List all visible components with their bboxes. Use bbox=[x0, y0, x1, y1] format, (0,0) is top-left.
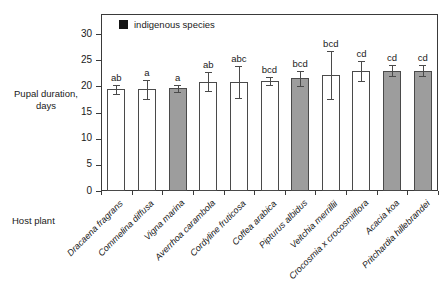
error-bar-cap-lower bbox=[358, 81, 365, 82]
error-bar-cap-upper bbox=[143, 80, 150, 81]
bar bbox=[352, 71, 370, 191]
legend: indigenous species bbox=[119, 19, 215, 30]
error-bar-stem bbox=[331, 51, 332, 99]
y-axis-tick-label: 0 bbox=[86, 185, 92, 197]
significance-letter: abc bbox=[224, 53, 254, 64]
error-bar-stem bbox=[423, 65, 424, 77]
error-bar-cap-lower bbox=[143, 99, 150, 100]
error-bar-stem bbox=[300, 71, 301, 86]
error-bar-cap-lower bbox=[205, 91, 212, 92]
x-axis-tick-mark bbox=[193, 191, 194, 195]
error-bar-cap-upper bbox=[297, 71, 304, 72]
error-bar-cap-upper bbox=[174, 85, 181, 86]
y-axis-tick-label: 5 bbox=[86, 158, 92, 170]
bar bbox=[107, 89, 125, 191]
x-axis-category-label: Dracaena fragrans bbox=[65, 198, 125, 258]
y-axis-title: Pupal duration, days bbox=[8, 88, 84, 112]
significance-letter: a bbox=[132, 67, 162, 78]
significance-letter: a bbox=[163, 72, 193, 83]
x-axis-tick-mark bbox=[285, 191, 286, 195]
error-bar-cap-upper bbox=[113, 85, 120, 86]
error-bar-cap-upper bbox=[419, 65, 426, 66]
error-bar-stem bbox=[208, 72, 209, 91]
y-axis-tick-label: 20 bbox=[81, 80, 92, 92]
bar bbox=[291, 78, 309, 191]
significance-letter: cd bbox=[377, 52, 407, 63]
pupal-duration-bar-chart: Pupal duration, days Host plant 05101520… bbox=[0, 0, 446, 305]
error-bar-cap-upper bbox=[266, 77, 273, 78]
bar bbox=[261, 81, 279, 191]
error-bar-cap-lower bbox=[266, 85, 273, 86]
bar bbox=[383, 71, 401, 191]
y-axis-tick-label: 15 bbox=[81, 106, 92, 118]
y-axis-tick-label: 25 bbox=[81, 54, 92, 66]
error-bar-cap-upper bbox=[358, 61, 365, 62]
error-bar-cap-lower bbox=[297, 86, 304, 87]
x-axis-category-label: Cordyline fruticosa bbox=[188, 198, 248, 258]
error-bar-stem bbox=[239, 66, 240, 97]
x-axis-tick-mark bbox=[315, 191, 316, 195]
error-bar-stem bbox=[270, 77, 271, 84]
error-bar-cap-lower bbox=[327, 99, 334, 100]
error-bar-cap-lower bbox=[419, 76, 426, 77]
significance-letter: bcd bbox=[316, 38, 346, 49]
x-axis-tick-mark bbox=[254, 191, 255, 195]
error-bar-cap-upper bbox=[205, 72, 212, 73]
error-bar-cap-lower bbox=[235, 98, 242, 99]
x-axis-tick-mark bbox=[346, 191, 347, 195]
x-axis-tick-mark bbox=[101, 191, 102, 195]
error-bar-cap-upper bbox=[235, 66, 242, 67]
x-axis-category-label: Commelina diffusa bbox=[96, 198, 156, 258]
error-bar-stem bbox=[361, 61, 362, 81]
significance-letter: ab bbox=[101, 72, 131, 83]
error-bar-stem bbox=[116, 85, 117, 93]
error-bar-stem bbox=[147, 80, 148, 100]
legend-swatch-indigenous-icon bbox=[119, 20, 128, 29]
bar bbox=[414, 71, 432, 191]
bar bbox=[169, 88, 187, 191]
significance-letter: bcd bbox=[285, 58, 315, 69]
x-axis-tick-mark bbox=[407, 191, 408, 195]
error-bar-cap-lower bbox=[174, 92, 181, 93]
legend-label-indigenous: indigenous species bbox=[134, 19, 215, 30]
significance-letter: bcd bbox=[255, 64, 285, 75]
x-axis-tick-mark bbox=[224, 191, 225, 195]
significance-letter: cd bbox=[346, 48, 376, 59]
x-axis-title: Host plant bbox=[12, 215, 55, 226]
x-axis-tick-mark bbox=[438, 191, 439, 195]
error-bar-cap-lower bbox=[113, 94, 120, 95]
bar bbox=[199, 82, 217, 191]
y-axis-tick-label: 30 bbox=[81, 28, 92, 40]
significance-letter: cd bbox=[408, 52, 438, 63]
y-axis-tick-label: 10 bbox=[81, 132, 92, 144]
error-bar-cap-upper bbox=[327, 51, 334, 52]
significance-letter: ab bbox=[193, 59, 223, 70]
error-bar-stem bbox=[392, 65, 393, 75]
x-axis-tick-mark bbox=[377, 191, 378, 195]
bar bbox=[138, 89, 156, 191]
x-axis-tick-mark bbox=[162, 191, 163, 195]
x-axis-tick-mark bbox=[132, 191, 133, 195]
error-bar-cap-upper bbox=[389, 65, 396, 66]
error-bar-cap-lower bbox=[389, 76, 396, 77]
